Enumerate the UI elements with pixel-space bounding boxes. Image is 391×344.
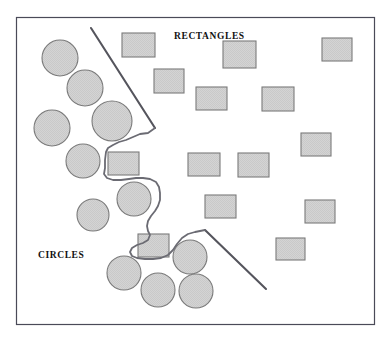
circle-shape [92,101,132,141]
rectangle-shape [223,41,256,68]
circle-shape [179,274,213,308]
circles-class-label: CIRCLES [38,250,84,260]
figure-container: RECTANGLES CIRCLES [0,0,391,344]
rectangle-shape [322,38,352,61]
circle-shape [66,144,100,178]
rectangle-shape [196,87,227,110]
rectangle-shape [154,69,184,93]
rectangle-shape [305,200,335,223]
rectangle-shape-group [108,33,352,260]
circle-shape [34,110,70,146]
circle-shape [77,199,109,231]
rectangles-class-label: RECTANGLES [174,31,245,41]
circle-shape [141,273,175,307]
rectangle-shape [205,195,236,218]
circle-shape [42,40,78,76]
shapes-diagram [0,0,391,344]
rectangle-shape [238,153,269,177]
rectangle-shape [262,87,294,111]
rectangle-shape-misclassified [138,234,169,257]
rectangle-shape [301,133,331,156]
separating-line-lower [205,230,266,289]
circle-shape [67,70,103,106]
rectangle-shape [276,238,305,260]
circle-shape [117,182,151,216]
circle-shape [173,240,207,274]
rectangle-shape [122,33,155,57]
circle-shape [107,256,141,290]
rectangle-shape-misclassified [108,152,139,175]
rectangle-shape [188,153,220,176]
